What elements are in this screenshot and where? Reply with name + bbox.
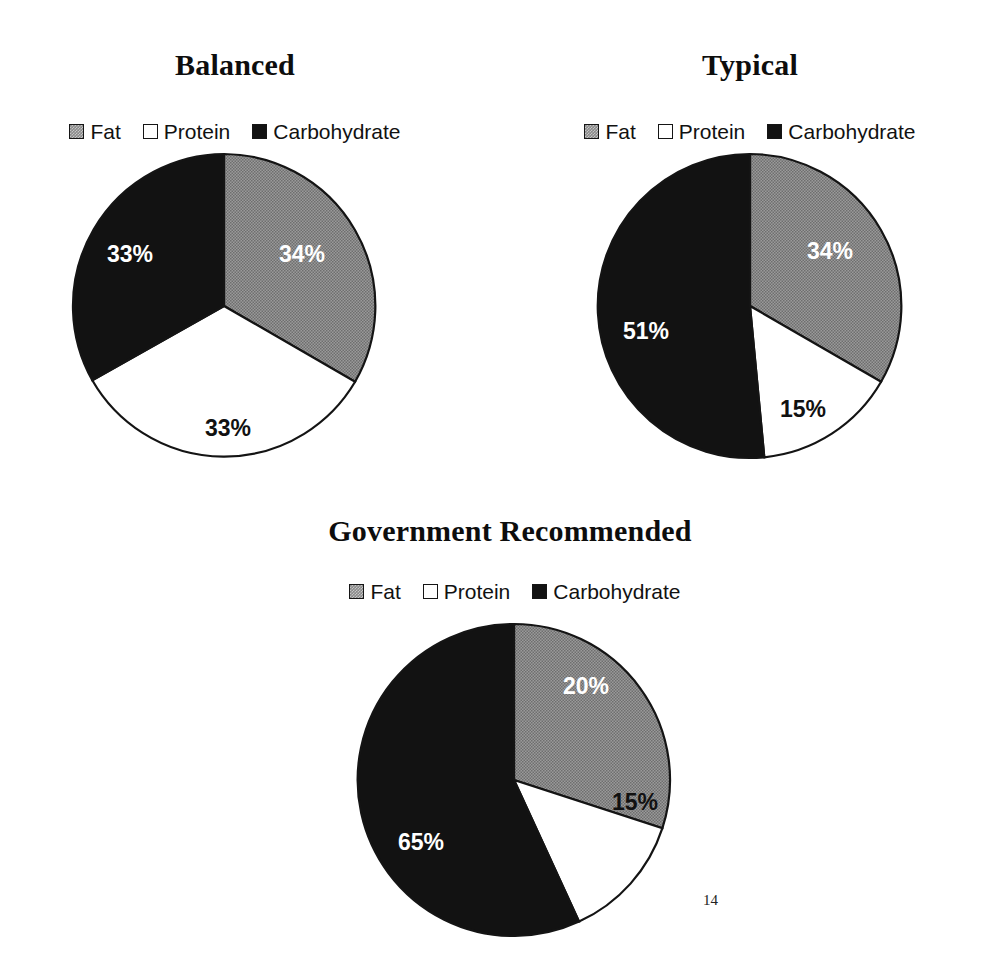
pie-government-recommended: 20% 15% 65% [348,614,680,946]
legend-label-carbohydrate: Carbohydrate [788,121,915,142]
chart-title-balanced: Balanced [40,48,430,82]
chart-balanced: Balanced Fat Protein Carbohydrate [0,0,470,480]
fat-swatch-icon [349,584,364,599]
pie-balanced-svg: 34% 33% 33% [62,144,386,468]
slice-label-carbohydrate: 51% [623,318,669,344]
legend-label-carbohydrate: Carbohydrate [273,121,400,142]
chart-government-recommended: Government Recommended Fat Protein Carbo… [260,490,760,970]
legend-item-fat: Fat [69,121,120,142]
chart-typical: Typical Fat Protein Carbohydrate [520,0,988,480]
legend-label-protein: Protein [164,121,231,142]
slice-carbohydrate [598,154,765,458]
legend-label-protein: Protein [679,121,746,142]
legend-item-protein: Protein [423,581,511,602]
legend-label-fat: Fat [605,121,635,142]
pie-typical: 34% 15% 51% [588,144,912,468]
pie-balanced: 34% 33% 33% [62,144,386,468]
pie-slices-government-recommended [358,624,670,936]
page-number: 14 [703,892,718,909]
slice-label-carbohydrate: 65% [398,829,444,855]
legend-item-protein: Protein [658,121,746,142]
slice-label-protein: 33% [205,415,251,441]
protein-swatch-icon [423,584,438,599]
chart-title-government-recommended: Government Recommended [260,514,760,548]
carbohydrate-swatch-icon [767,124,782,139]
chart-title-typical: Typical [555,48,945,82]
carbohydrate-swatch-icon [252,124,267,139]
slice-label-fat: 34% [279,241,325,267]
legend-item-carbohydrate: Carbohydrate [767,121,915,142]
slice-label-protein: 15% [780,396,826,422]
legend-government-recommended: Fat Protein Carbohydrate [310,578,720,604]
legend-label-fat: Fat [370,581,400,602]
slide-page: { "page": { "page_number": "14", "backgr… [0,0,988,980]
legend-label-fat: Fat [90,121,120,142]
slice-label-fat: 20% [563,673,609,699]
legend-item-fat: Fat [349,581,400,602]
slice-label-protein: 15% [612,789,658,815]
fat-swatch-icon [69,124,84,139]
legend-item-carbohydrate: Carbohydrate [252,121,400,142]
legend-label-protein: Protein [444,581,511,602]
legend-item-protein: Protein [143,121,231,142]
legend-label-carbohydrate: Carbohydrate [553,581,680,602]
legend-item-fat: Fat [584,121,635,142]
slice-label-carbohydrate: 33% [107,241,153,267]
pie-slices-typical [598,154,902,458]
protein-swatch-icon [143,124,158,139]
legend-typical: Fat Protein Carbohydrate [545,118,955,144]
pie-typical-svg: 34% 15% 51% [588,144,912,468]
legend-balanced: Fat Protein Carbohydrate [30,118,440,144]
fat-swatch-icon [584,124,599,139]
carbohydrate-swatch-icon [532,584,547,599]
legend-item-carbohydrate: Carbohydrate [532,581,680,602]
protein-swatch-icon [658,124,673,139]
slice-label-fat: 34% [807,238,853,264]
pie-government-recommended-svg: 20% 15% 65% [348,614,680,946]
pie-slices-balanced [73,154,375,457]
